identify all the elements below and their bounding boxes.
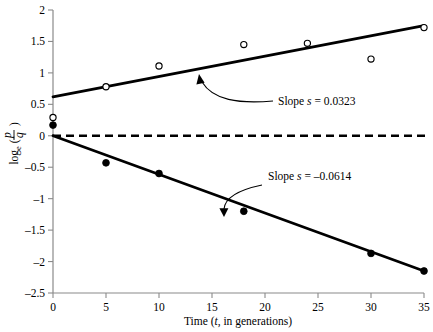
y-tick-label: 0	[39, 130, 45, 142]
data-point	[103, 84, 109, 90]
data-point	[240, 208, 247, 215]
chart-canvas: –2.5–2–1.5–1–0.500.511.52 05101520253035…	[0, 0, 433, 332]
data-point	[156, 63, 162, 69]
y-axis-title-text: loge (	[8, 139, 23, 164]
upper-slope-annotation: Slope s = 0.0323	[278, 95, 356, 108]
x-axis-title: Time (t, in generations)	[184, 315, 292, 328]
data-point	[50, 122, 57, 129]
y-axis-fraction: p q	[1, 130, 26, 140]
data-point	[421, 25, 427, 31]
data-point	[103, 159, 110, 166]
data-point	[304, 40, 310, 46]
x-tick-label: 15	[206, 301, 218, 313]
y-tick-label: –0.5	[24, 161, 45, 173]
annotation-arrows	[196, 74, 273, 217]
lower-slope-annotation: Slope s = –0.0614	[268, 170, 351, 183]
x-tick-group: 05101520253035	[50, 293, 430, 313]
data-point	[156, 170, 163, 177]
x-tick-label: 0	[50, 301, 56, 313]
lower-series-points	[50, 122, 428, 275]
y-tick-label: –2	[33, 256, 46, 268]
y-tick-label: –2.5	[24, 287, 45, 299]
upper-annotation-arrowhead-icon	[196, 74, 204, 84]
y-tick-label: 2	[39, 4, 45, 16]
y-tick-label: 0.5	[31, 98, 46, 110]
data-point	[368, 56, 374, 62]
y-tick-label: 1	[39, 67, 45, 79]
lower-annotation-arrowhead-icon	[219, 208, 228, 217]
x-tick-label: 20	[259, 301, 271, 313]
data-point	[368, 250, 375, 257]
fraction-denominator: q	[13, 132, 26, 138]
data-point	[241, 41, 247, 47]
y-axis-title: loge ( p q )	[1, 122, 26, 165]
x-tick-label: 25	[312, 301, 324, 313]
data-point	[50, 114, 56, 120]
y-tick-label: –1	[33, 193, 46, 205]
upper-annotation-arrow-icon	[202, 82, 273, 102]
x-tick-label: 10	[153, 301, 165, 313]
x-tick-label: 30	[365, 301, 377, 313]
x-tick-label: 35	[418, 301, 430, 313]
figure-container: –2.5–2–1.5–1–0.500.511.52 05101520253035…	[0, 0, 433, 332]
y-tick-label: –1.5	[24, 224, 45, 236]
y-tick-label: 1.5	[31, 35, 46, 47]
y-tick-group: –2.5–2–1.5–1–0.500.511.52	[24, 4, 53, 299]
x-tick-label: 5	[103, 301, 109, 313]
y-axis-title-close: )	[8, 122, 21, 126]
upper-series-points	[50, 25, 427, 121]
data-point	[421, 268, 428, 275]
